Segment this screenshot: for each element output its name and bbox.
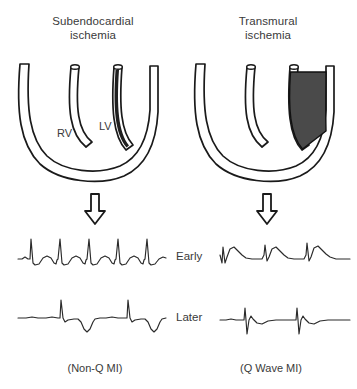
rv-outer-wall bbox=[19, 64, 158, 181]
septum-vessel-mouth bbox=[71, 65, 80, 70]
column-title-line1: Transmural bbox=[193, 14, 343, 28]
chamber-label-lv: LV bbox=[99, 120, 112, 132]
column-title-subendocardial: Subendocardial ischemia bbox=[18, 14, 168, 42]
caption-q-wave-mi: (Q Wave MI) bbox=[196, 362, 346, 374]
ecg-trace-early-subendocardial bbox=[16, 233, 168, 279]
ecg-trace-later-subendocardial bbox=[16, 296, 168, 342]
heart-cross-section-transmural bbox=[190, 52, 342, 187]
septum-vessel-mouth bbox=[247, 65, 256, 70]
row-label-early: Early bbox=[176, 250, 236, 262]
ischemia-comparison-figure: Subendocardial ischemia Transmural ische… bbox=[0, 0, 357, 389]
heart-cross-section-subendocardial: RV LV bbox=[14, 52, 166, 187]
down-block-arrow-icon bbox=[82, 192, 108, 226]
caption-non-q-mi: (Non-Q MI) bbox=[20, 362, 170, 374]
column-title-line1: Subendocardial bbox=[18, 14, 168, 28]
lv-vessel-mouth bbox=[114, 65, 123, 70]
column-title-line2: ischemia bbox=[193, 28, 343, 42]
lv-vessel-mouth bbox=[290, 65, 299, 70]
column-title-transmural: Transmural ischemia bbox=[193, 14, 343, 42]
row-label-later: Later bbox=[176, 311, 236, 323]
interventricular-septum bbox=[69, 67, 92, 147]
ecg-trace-early-transmural bbox=[218, 233, 354, 279]
ecg-trace-later-transmural bbox=[218, 296, 354, 342]
chamber-label-rv: RV bbox=[57, 127, 73, 139]
down-block-arrow-icon bbox=[254, 192, 280, 226]
column-title-line2: ischemia bbox=[18, 28, 168, 42]
interventricular-septum bbox=[245, 67, 268, 147]
